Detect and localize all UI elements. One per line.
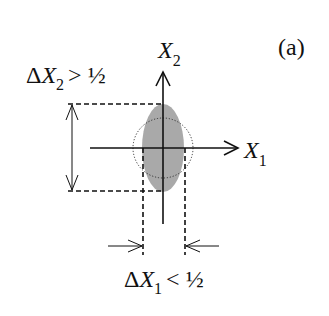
delta-x1-label: ΔX1< ½ xyxy=(124,266,204,297)
panel-label: (a) xyxy=(278,34,305,60)
diagram-canvas: (a) X2 X1 ΔX2> ½ ΔX1< ½ xyxy=(0,0,329,316)
x2-axis-label: X2 xyxy=(157,37,181,69)
delta-x2-label: ΔX2> ½ xyxy=(26,62,106,93)
x1-axis-label: X1 xyxy=(243,137,267,169)
